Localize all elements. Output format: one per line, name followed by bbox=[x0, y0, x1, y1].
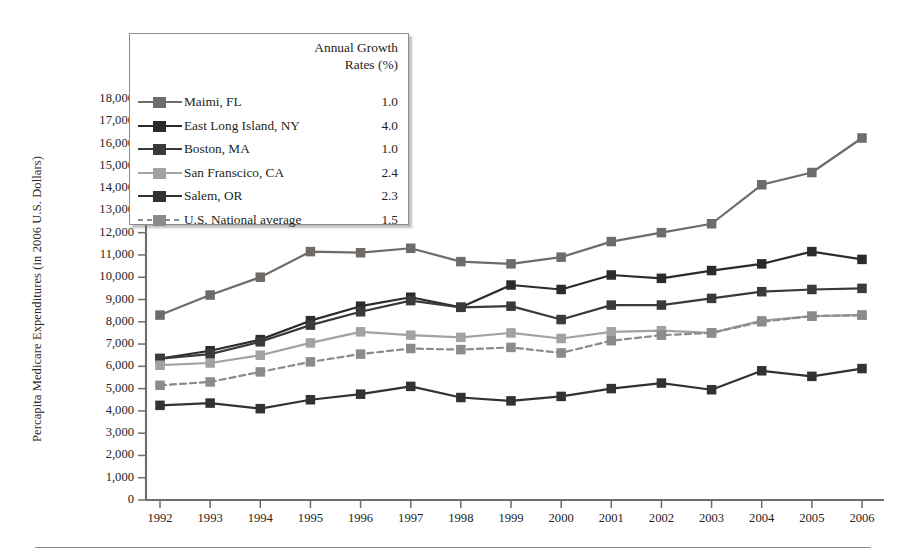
legend-swatch-icon bbox=[138, 118, 182, 134]
data-point-marker bbox=[205, 377, 215, 387]
legend-growth-rate: 4.0 bbox=[364, 118, 402, 134]
data-point-marker bbox=[256, 404, 265, 414]
data-point-marker bbox=[657, 378, 667, 388]
data-point-marker bbox=[406, 382, 416, 392]
data-point-marker bbox=[456, 333, 466, 343]
data-point-marker bbox=[657, 228, 667, 238]
y-axis-tick-label: 0 bbox=[76, 493, 134, 505]
legend-series-label: San Franscico, CA bbox=[182, 165, 364, 181]
legend-marker bbox=[153, 97, 166, 108]
data-point-marker bbox=[205, 398, 215, 408]
data-point-marker bbox=[306, 395, 316, 405]
data-point-marker bbox=[607, 327, 617, 337]
legend-swatch-icon bbox=[138, 188, 182, 204]
data-point-marker bbox=[757, 287, 767, 297]
data-point-marker bbox=[406, 330, 416, 340]
x-axis-tick-label: 1993 bbox=[184, 512, 236, 524]
x-axis-tick-label: 1992 bbox=[134, 512, 186, 524]
legend-item[interactable]: East Long Island, NY4.0 bbox=[138, 116, 402, 136]
data-point-marker bbox=[607, 384, 617, 394]
data-point-marker bbox=[857, 284, 867, 294]
data-point-marker bbox=[556, 252, 566, 262]
data-point-marker bbox=[556, 315, 566, 325]
x-axis-tick-label: 2004 bbox=[736, 512, 788, 524]
data-point-marker bbox=[607, 336, 617, 346]
data-point-marker bbox=[556, 334, 566, 344]
x-axis-tick-label: 2006 bbox=[836, 512, 888, 524]
data-point-marker bbox=[306, 338, 316, 348]
y-axis-tick-label: 13,000 bbox=[76, 203, 134, 215]
y-axis-tick-label: 6,000 bbox=[76, 359, 134, 371]
data-point-marker bbox=[506, 328, 516, 338]
legend-swatch-icon bbox=[138, 94, 182, 110]
legend-growth-rate: 2.4 bbox=[364, 165, 402, 181]
legend-growth-rate: 2.3 bbox=[364, 188, 402, 204]
x-axis-tick-label: 2003 bbox=[686, 512, 738, 524]
data-point-marker bbox=[306, 320, 316, 330]
data-point-marker bbox=[356, 307, 366, 317]
legend-title: Annual Growth Rates (%) bbox=[218, 40, 398, 73]
y-axis-tick-label: 17,000 bbox=[76, 114, 134, 126]
data-point-marker bbox=[356, 327, 366, 337]
legend-series-label: Boston, MA bbox=[182, 141, 364, 157]
y-axis-tick-label: 1,000 bbox=[76, 471, 134, 483]
x-axis-tick-label: 1996 bbox=[335, 512, 387, 524]
data-point-marker bbox=[607, 300, 617, 310]
data-point-marker bbox=[757, 317, 767, 327]
data-point-marker bbox=[506, 259, 516, 269]
data-point-marker bbox=[256, 367, 265, 377]
x-axis-tick-label: 1999 bbox=[485, 512, 537, 524]
data-point-marker bbox=[506, 343, 516, 353]
data-point-marker bbox=[456, 345, 466, 355]
data-point-marker bbox=[807, 247, 817, 257]
y-axis-tick-label: 7,000 bbox=[76, 337, 134, 349]
data-point-marker bbox=[456, 257, 466, 267]
data-point-marker bbox=[256, 350, 265, 360]
legend-title-line-2: Rates (%) bbox=[218, 57, 398, 74]
data-point-marker bbox=[707, 294, 717, 304]
legend-item[interactable]: U.S. National average1.5 bbox=[138, 210, 402, 230]
data-point-marker bbox=[807, 168, 817, 178]
legend-marker bbox=[153, 144, 166, 155]
data-point-marker bbox=[406, 244, 416, 254]
y-axis-tick-label: 8,000 bbox=[76, 315, 134, 327]
legend-growth-rate: 1.5 bbox=[364, 212, 402, 228]
legend-item[interactable]: Boston, MA1.0 bbox=[138, 139, 402, 159]
data-point-marker bbox=[757, 259, 767, 269]
x-axis-tick-label: 2001 bbox=[585, 512, 637, 524]
legend-item[interactable]: Salem, OR2.3 bbox=[138, 186, 402, 206]
data-point-marker bbox=[406, 296, 416, 306]
y-axis-tick-label: 15,000 bbox=[76, 159, 134, 171]
data-point-marker bbox=[707, 385, 717, 395]
data-point-marker bbox=[757, 180, 767, 190]
data-point-marker bbox=[657, 274, 667, 284]
legend-swatch-icon bbox=[138, 212, 182, 228]
y-axis-tick-label: 4,000 bbox=[76, 404, 134, 416]
legend-item[interactable]: Maimi, FL1.0 bbox=[138, 92, 402, 112]
data-point-marker bbox=[807, 285, 817, 295]
legend-item[interactable]: San Franscico, CA2.4 bbox=[138, 163, 402, 183]
legend-swatch-icon bbox=[138, 165, 182, 181]
data-point-marker bbox=[857, 364, 867, 374]
x-axis-tick-label: 2005 bbox=[786, 512, 838, 524]
data-point-marker bbox=[205, 358, 215, 368]
data-point-marker bbox=[456, 393, 466, 403]
data-point-marker bbox=[205, 349, 215, 359]
y-axis-tick-label: 2,000 bbox=[76, 448, 134, 460]
data-point-marker bbox=[556, 285, 566, 295]
data-point-marker bbox=[506, 280, 516, 290]
data-point-marker bbox=[155, 310, 165, 320]
data-point-marker bbox=[356, 389, 366, 399]
legend-growth-rate: 1.0 bbox=[364, 94, 402, 110]
x-axis-tick-label: 2002 bbox=[635, 512, 687, 524]
x-axis-tick-label: 1995 bbox=[284, 512, 336, 524]
legend-marker bbox=[153, 168, 166, 179]
figure-container: Percapita Medicare Expenditures (in 2006… bbox=[0, 0, 899, 558]
data-point-marker bbox=[556, 392, 566, 402]
data-point-marker bbox=[807, 311, 817, 321]
legend-marker bbox=[153, 121, 166, 132]
data-point-marker bbox=[506, 396, 516, 406]
footer-rule bbox=[35, 547, 871, 548]
data-point-marker bbox=[155, 360, 165, 370]
data-point-marker bbox=[155, 401, 165, 411]
